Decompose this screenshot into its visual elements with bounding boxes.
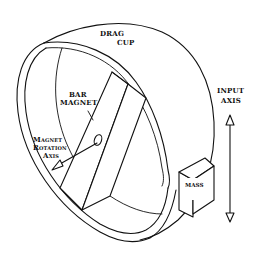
input-axis-label-line1: INPUT	[217, 86, 245, 95]
drag-cup-diagram: DRAG CUP BAR MAGNET INPUT AXIS Magnet Ro…	[0, 0, 254, 257]
bar-magnet-label-line2: MAGNET	[60, 98, 98, 107]
cup-inner-base	[110, 196, 162, 214]
mass-label: MASS	[185, 182, 204, 188]
input-axis-arrow-down	[226, 213, 234, 222]
drag-cup-label-line1: DRAG	[100, 29, 124, 38]
rotation-axis-label-line3: Axis	[42, 151, 59, 160]
input-axis-label-line2: AXIS	[220, 96, 241, 105]
diagram-canvas: DRAG CUP BAR MAGNET INPUT AXIS Magnet Ro…	[0, 0, 254, 257]
rotation-axis-arrowhead	[52, 160, 63, 170]
input-axis-arrow-up	[226, 115, 234, 125]
drag-cup-label-line2: CUP	[117, 38, 135, 47]
